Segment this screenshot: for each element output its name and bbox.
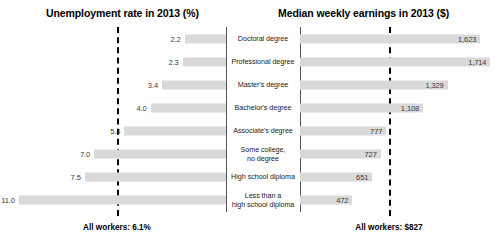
unemployment-bar (85, 173, 226, 182)
category-row: Associate's degree (226, 120, 300, 143)
category-label: Less than ahigh school diploma (226, 192, 300, 209)
unemployment-bar (183, 57, 226, 66)
earnings-bar (300, 34, 480, 43)
earnings-row: 1,623 (300, 27, 500, 50)
category-panel: Doctoral degreeProfessional degreeMaster… (226, 27, 300, 212)
unemployment-row: 7.5 (0, 166, 226, 189)
unemployment-value-label: 5.4 (110, 127, 120, 136)
unemployment-bar (185, 34, 226, 43)
earnings-row: 651 (300, 166, 500, 189)
unemployment-bar (124, 127, 226, 136)
category-row: High school diploma (226, 166, 300, 189)
earnings-value-label: 727 (355, 150, 377, 159)
right-chart-title: Median weekly earnings in 2013 ($) (278, 7, 449, 19)
unemployment-row: 3.4 (0, 73, 226, 96)
earnings-value-label: 651 (346, 173, 368, 182)
earnings-row: 727 (300, 143, 500, 166)
unemployment-row: 7.0 (0, 143, 226, 166)
earnings-row: 1,108 (300, 96, 500, 119)
earnings-bar (300, 57, 490, 66)
earnings-value-label: 1,329 (422, 80, 444, 89)
unemployment-value-label: 2.3 (169, 57, 179, 66)
unemployment-footer: All workers: 6.1% (83, 223, 151, 232)
category-label: High school diploma (226, 173, 300, 182)
category-row: Doctoral degree (226, 27, 300, 50)
unemployment-bar (19, 196, 226, 205)
earnings-row: 1,714 (300, 50, 500, 73)
left-chart-title: Unemployment rate in 2013 (%) (46, 7, 199, 19)
category-row: Master's degree (226, 73, 300, 96)
category-label: Some college,no degree (226, 146, 300, 163)
earnings-row: 1,329 (300, 73, 500, 96)
earnings-panel: 1,6231,7141,3291,108777727651472 (300, 27, 500, 212)
earnings-value-label: 1,108 (397, 103, 419, 112)
unemployment-row: 2.3 (0, 50, 226, 73)
unemployment-value-label: 3.4 (148, 80, 158, 89)
category-label: Professional degree (226, 57, 300, 66)
earnings-footer: All workers: $827 (355, 223, 422, 232)
unemployment-value-label: 11.0 (1, 196, 15, 205)
category-label: Doctoral degree (226, 34, 300, 43)
chart-container: Unemployment rate in 2013 (%) Median wee… (0, 0, 500, 244)
unemployment-value-label: 4.0 (137, 103, 147, 112)
earnings-row: 472 (300, 189, 500, 212)
earnings-value-label: 1,623 (454, 34, 476, 43)
unemployment-row: 4.0 (0, 96, 226, 119)
earnings-value-label: 1,714 (464, 57, 486, 66)
earnings-value-label: 472 (326, 196, 348, 205)
unemployment-value-label: 7.5 (71, 173, 81, 182)
unemployment-bar (151, 103, 226, 112)
unemployment-panel: 2.22.33.44.05.47.07.511.0 (0, 27, 226, 212)
category-row: Some college,no degree (226, 143, 300, 166)
category-label: Master's degree (226, 81, 300, 90)
category-row: Bachelor's degree (226, 96, 300, 119)
earnings-value-label: 777 (360, 127, 382, 136)
unemployment-bar (162, 80, 226, 89)
category-label: Associate's degree (226, 127, 300, 136)
unemployment-row: 5.4 (0, 120, 226, 143)
unemployment-value-label: 7.0 (80, 150, 90, 159)
category-row: Professional degree (226, 50, 300, 73)
category-row: Less than ahigh school diploma (226, 189, 300, 212)
unemployment-value-label: 2.2 (170, 34, 180, 43)
unemployment-row: 11.0 (0, 189, 226, 212)
unemployment-row: 2.2 (0, 27, 226, 50)
earnings-row: 777 (300, 120, 500, 143)
category-label: Bachelor's degree (226, 104, 300, 113)
unemployment-bar (94, 150, 226, 159)
